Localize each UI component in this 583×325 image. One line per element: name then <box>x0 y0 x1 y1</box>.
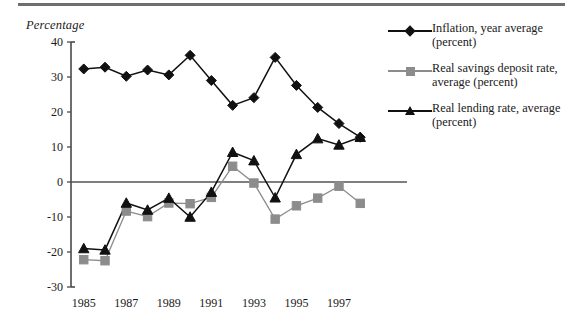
data-point-diamond <box>79 64 89 74</box>
y-tick-label: 20 <box>51 105 63 119</box>
legend-key-square <box>388 64 432 78</box>
legend-label-diamond: Inflation, year average(percent) <box>432 22 580 49</box>
diamond-icon <box>404 25 415 36</box>
x-tick-label: 1987 <box>114 296 138 310</box>
data-point-triangle <box>249 155 259 164</box>
legend-label-square: Real savings deposit rate,average (perce… <box>432 62 580 89</box>
y-tick-label: 0 <box>57 175 63 189</box>
x-tick-label: 1997 <box>327 296 351 310</box>
data-point-square <box>271 215 279 223</box>
data-point-triangle <box>164 193 174 202</box>
data-point-diamond <box>100 62 110 72</box>
data-point-square <box>186 200 194 208</box>
legend-key-triangle <box>388 104 432 118</box>
y-tick-label: 10 <box>51 140 63 154</box>
data-point-diamond <box>143 65 153 75</box>
legend-item-diamond: Inflation, year average(percent) <box>388 22 580 49</box>
square-icon <box>406 67 415 76</box>
series-line-diamond <box>84 55 360 137</box>
data-point-square <box>101 257 109 265</box>
legend-label-line2: (percent) <box>432 116 580 130</box>
data-point-square <box>356 199 364 207</box>
data-point-triangle <box>270 193 280 202</box>
legend-label-line1: Inflation, year average <box>432 22 580 36</box>
y-tick-label: -20 <box>47 245 63 259</box>
x-tick-label: 1991 <box>199 296 223 310</box>
legend-label-triangle: Real lending rate, average(percent) <box>432 102 580 129</box>
data-point-square <box>250 179 258 187</box>
legend-item-square: Real savings deposit rate,average (perce… <box>388 62 580 89</box>
data-point-square <box>292 202 300 210</box>
y-tick-label: 30 <box>51 70 63 84</box>
x-tick-label: 1985 <box>72 296 96 310</box>
legend-label-line2: average (percent) <box>432 76 580 90</box>
data-point-triangle <box>121 198 131 207</box>
data-point-square <box>80 256 88 264</box>
data-point-square <box>228 162 236 170</box>
triangle-icon <box>405 106 415 115</box>
x-tick-label: 1995 <box>284 296 308 310</box>
data-point-square <box>314 194 322 202</box>
legend-key-diamond <box>388 24 432 38</box>
figure-chart: Percentage 403020100-10-20-3019851987198… <box>0 0 583 325</box>
x-tick-label: 1989 <box>157 296 181 310</box>
data-point-diamond <box>121 71 131 81</box>
x-tick-label: 1993 <box>242 296 266 310</box>
data-point-triangle <box>313 133 323 142</box>
y-tick-label: 40 <box>51 35 63 49</box>
legend-label-line2: (percent) <box>432 36 580 50</box>
legend-item-triangle: Real lending rate, average(percent) <box>388 102 580 129</box>
data-point-diamond <box>249 93 259 103</box>
data-point-square <box>122 207 130 215</box>
legend: Inflation, year average(percent)Real sav… <box>388 22 580 143</box>
data-point-square <box>335 182 343 190</box>
data-point-triangle <box>291 149 301 158</box>
legend-label-line1: Real lending rate, average <box>432 102 580 116</box>
data-point-triangle <box>227 147 237 156</box>
y-tick-label: -30 <box>47 280 63 294</box>
legend-label-line1: Real savings deposit rate, <box>432 62 580 76</box>
y-tick-label: -10 <box>47 210 63 224</box>
